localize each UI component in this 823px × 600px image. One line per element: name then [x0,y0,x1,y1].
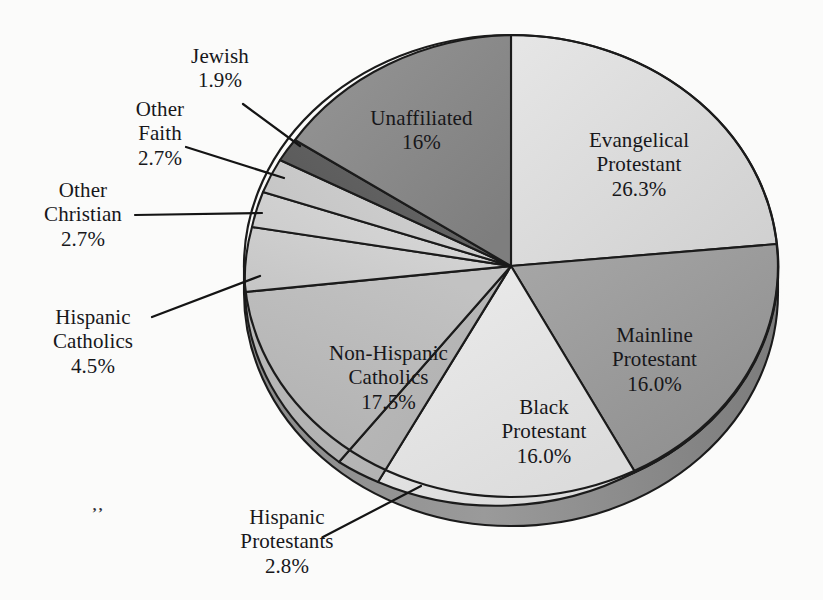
callout-label-other-faith: Other Faith 2.7% [100,97,220,170]
callout-label-other-christian-line1: Other [18,178,148,202]
callout-label-other-faith-line3: 2.7% [100,146,220,170]
callout-label-hispanic-catholics-line3: 4.5% [28,354,158,378]
scan-artifact-speck: ’’ [92,505,105,522]
slice-label-unaffiliated-line2: 16% [334,130,509,154]
slice-label-mainline-line1: Mainline [567,323,742,347]
slice-label-evangelical-line1: Evangelical [549,128,729,152]
callout-label-hispanic-catholics: Hispanic Catholics 4.5% [28,305,158,378]
callout-label-other-christian: Other Christian 2.7% [18,178,148,251]
callout-label-other-faith-line1: Other [100,97,220,121]
callout-label-hispanic-protestants-line2: Protestants [207,529,367,553]
slice-label-black-line1: Black [464,395,624,419]
callout-label-hispanic-protestants: Hispanic Protestants 2.8% [207,505,367,578]
callout-label-hispanic-protestants-line1: Hispanic [207,505,367,529]
slice-label-non-hispanic-catholics: Non-Hispanic Catholics 17.5% [296,341,481,414]
leader-line-jewish [243,104,300,146]
slice-label-evangelical-line3: 26.3% [549,177,729,201]
slice-label-black-line3: 16.0% [464,444,624,468]
callout-label-other-faith-line2: Faith [100,121,220,145]
callout-label-hispanic-catholics-line2: Catholics [28,329,158,353]
callout-label-jewish-line2: 1.9% [160,68,280,92]
callout-label-hispanic-catholics-line1: Hispanic [28,305,158,329]
callout-label-jewish: Jewish 1.9% [160,44,280,93]
callout-label-other-christian-line2: Christian [18,202,148,226]
slice-label-black-protestant: Black Protestant 16.0% [464,395,624,468]
slice-label-black-line2: Protestant [464,419,624,443]
callout-label-jewish-line1: Jewish [160,44,280,68]
pie-chart-figure: Unaffiliated 16% Evangelical Protestant … [0,0,823,600]
slice-label-mainline-line2: Protestant [567,347,742,371]
slice-label-unaffiliated: Unaffiliated 16% [334,106,509,155]
slice-label-nonhispanic-line2: Catholics [296,365,481,389]
callout-label-hispanic-protestants-line3: 2.8% [207,554,367,578]
leader-line-other-christian [135,213,262,215]
slice-label-evangelical-line2: Protestant [549,152,729,176]
slice-label-unaffiliated-line1: Unaffiliated [334,106,509,130]
callout-label-other-christian-line3: 2.7% [18,227,148,251]
pie-chart-svg [0,0,823,600]
slice-label-nonhispanic-line3: 17.5% [296,390,481,414]
slice-label-mainline-line3: 16.0% [567,372,742,396]
slice-label-evangelical-protestant: Evangelical Protestant 26.3% [549,128,729,201]
slice-label-mainline-protestant: Mainline Protestant 16.0% [567,323,742,396]
slice-label-nonhispanic-line1: Non-Hispanic [296,341,481,365]
